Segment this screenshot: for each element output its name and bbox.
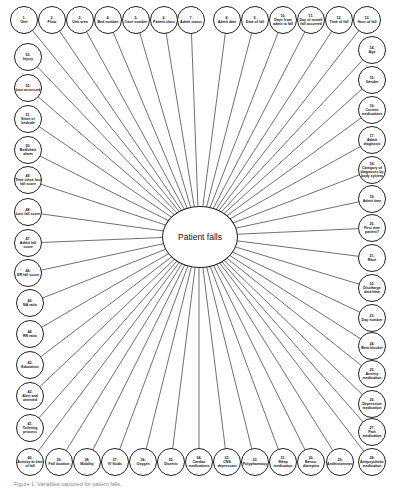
variable-node: 32.Polypharmacy: [241, 448, 269, 476]
node-label: Alert and oriented: [17, 394, 43, 402]
variable-node: 29.Antihistamines: [326, 448, 354, 476]
node-label: ER fall score: [17, 273, 39, 277]
connector-line: [199, 50, 372, 236]
center-label: Patient falls: [178, 232, 222, 242]
connector-line: [24, 20, 199, 236]
node-label: CNS depressant: [214, 460, 240, 468]
connector-line: [199, 20, 283, 236]
node-label: Current medications: [359, 108, 385, 116]
node-label: Patient class: [153, 20, 175, 24]
node-label: First time patient?: [359, 226, 385, 234]
variable-node: 38.Mobility: [73, 448, 101, 476]
node-label: Depression medication: [359, 402, 385, 410]
connector-line: [199, 20, 227, 236]
connector-line: [28, 57, 199, 236]
node-label: Polypharmacy: [243, 462, 268, 466]
node-label: Activity at time of fall: [17, 460, 43, 468]
variable-node: 36.Oxygen: [129, 448, 157, 476]
variable-node: 46.ER fall score: [14, 259, 42, 287]
variable-node: 27.Pain medication: [358, 418, 386, 446]
variable-node: 51.Sitter or bedside: [14, 105, 42, 133]
variable-node: 34.Cardiac medications: [185, 448, 213, 476]
variable-node: 35.Diuretic: [157, 448, 185, 476]
variable-node: 3.Unit area: [66, 6, 94, 34]
variable-node: 53.Injury: [14, 43, 42, 71]
node-label: Pain medication: [359, 430, 385, 438]
variable-node: 31.Sleep medication: [269, 448, 297, 476]
connector-line: [199, 236, 255, 462]
variable-node: 47.Admit fall score: [14, 229, 42, 257]
variable-node: 9.Date of fall: [241, 6, 269, 34]
connector-line: [115, 236, 199, 462]
connector-line: [30, 236, 199, 428]
node-label: Floor: [48, 20, 57, 24]
node-label: Day of month fall occurred: [298, 18, 324, 26]
node-label: Benzo-diazepine: [298, 460, 324, 468]
variable-node: 50.Bed/chair alarm: [14, 136, 42, 164]
connector-line: [199, 20, 339, 236]
node-label: Category of diagnoses by body system: [359, 166, 385, 178]
figure-caption: Figure 1. Variables captured for patient…: [14, 481, 122, 487]
variable-node: 13.Hour of fall: [353, 6, 381, 34]
variable-node: 20.First time patient?: [358, 214, 386, 242]
variable-node: 1.Unit: [10, 6, 38, 34]
variable-node: 43.Education: [16, 351, 44, 379]
variable-node: 8.Admit date: [213, 6, 241, 34]
node-label: Time of fall: [330, 20, 349, 24]
variable-node: 18.Category of diagnoses by body system: [358, 156, 386, 184]
variable-node: 45.NA ratio: [16, 289, 44, 317]
connector-line: [143, 236, 199, 462]
variable-node: 23.Day number: [358, 304, 386, 332]
variable-node: 48.Last fall score: [14, 198, 42, 226]
node-label: Age: [369, 50, 376, 54]
variable-node: 52.Last assessed: [14, 74, 42, 102]
patient-falls-diagram: 1.Unit2.Floor3.Unit area4.Bed number5.Ca…: [0, 0, 403, 492]
variable-node: 49.Time since last fall score: [14, 166, 42, 194]
variable-node: 16.Current medications: [358, 96, 386, 124]
connector-line: [199, 236, 311, 462]
variable-node: 12.Time of fall: [325, 6, 353, 34]
node-label: Beta blocker: [361, 346, 383, 350]
connector-line: [199, 20, 255, 236]
variable-node: 39.Fall location: [45, 448, 73, 476]
variable-node: 6.Patient class: [150, 6, 178, 34]
variable-node: 44.RN ratio: [16, 320, 44, 348]
center-node: Patient falls: [162, 206, 238, 268]
variable-node: 25.Anxiety medication: [358, 360, 386, 388]
variable-node: 24.Beta blocker: [358, 332, 386, 360]
connector-line: [199, 236, 227, 462]
variable-node: 41.Toileting process: [16, 414, 44, 442]
variable-node: 28.Antipsychotic medication: [358, 448, 386, 476]
node-label: Gender: [366, 80, 379, 84]
connector-line: [87, 236, 199, 462]
node-label: Mobility: [80, 462, 94, 466]
node-label: Cardiac medications: [186, 460, 212, 468]
node-label: Admit status: [180, 20, 202, 24]
variable-node: 7.Admit status: [177, 6, 205, 34]
node-label: NA ratio: [23, 303, 37, 307]
variable-node: 33.CNS depressant: [213, 448, 241, 476]
node-label: Antihistamines: [327, 462, 353, 466]
variable-node: 10.Days from admit to fall: [269, 6, 297, 34]
variable-node: 22.Discharge date/time: [358, 274, 386, 302]
node-label: Admit diagnosis: [359, 138, 385, 146]
node-label: Unit area: [72, 20, 87, 24]
node-label: Hour of fall: [358, 20, 377, 24]
node-label: Admit fall score: [15, 241, 41, 249]
node-label: Unit: [21, 20, 28, 24]
variable-node: 11.Day of month fall occurred: [297, 6, 325, 34]
node-label: Days from admit to fall: [270, 18, 296, 26]
connector-line: [108, 20, 199, 236]
node-label: IV fluids: [108, 462, 122, 466]
node-label: Fall location: [49, 462, 70, 466]
node-label: Anxiety medication: [359, 372, 385, 380]
variable-node: 40.Activity at time of fall: [16, 448, 44, 476]
node-label: Time since last fall score: [15, 178, 41, 186]
connector-line: [171, 236, 199, 462]
node-label: Toileting process: [17, 426, 43, 434]
variable-node: 2.Floor: [38, 6, 66, 34]
node-label: Admit date: [218, 20, 237, 24]
variable-node: 14.Age: [358, 36, 386, 64]
variable-node: 19.Admit time: [358, 185, 386, 213]
connector-line: [191, 20, 199, 236]
